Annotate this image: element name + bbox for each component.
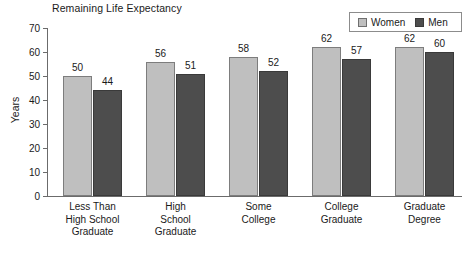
category-label-line: Graduate — [321, 214, 363, 227]
x-axis-category-label: GraduateDegree — [404, 201, 446, 226]
y-axis-tick-mark — [43, 52, 47, 53]
chart-legend: WomenMen — [349, 12, 462, 32]
bar-value-label: 51 — [185, 60, 196, 71]
y-axis-tick-label: 70 — [29, 23, 40, 34]
bar-value-label: 50 — [72, 62, 83, 73]
category-label-line: Less Than — [66, 201, 120, 214]
bar-value-label: 44 — [102, 76, 113, 87]
x-axis-category-label: CollegeGraduate — [321, 201, 363, 226]
bar-value-label: 58 — [238, 43, 249, 54]
y-axis-tick-label: 40 — [29, 95, 40, 106]
y-axis-title: Years — [9, 97, 21, 123]
bar-women-3 — [312, 47, 341, 196]
bar-value-label: 62 — [404, 33, 415, 44]
y-axis-tick-label: 10 — [29, 167, 40, 178]
bar-men-2 — [259, 71, 288, 196]
y-axis-tick-mark — [43, 196, 47, 197]
bar-men-3 — [342, 59, 371, 196]
category-label-line: High School — [66, 214, 120, 227]
x-axis-category-label: SomeCollege — [242, 201, 276, 226]
legend-swatch-icon — [358, 18, 367, 27]
y-axis-tick-mark — [43, 148, 47, 149]
bar-value-label: 62 — [321, 33, 332, 44]
legend-label: Men — [428, 17, 447, 28]
bar-men-0 — [93, 90, 122, 196]
y-axis-tick-label: 0 — [34, 191, 40, 202]
category-label-line: College — [321, 201, 363, 214]
legend-swatch-icon — [415, 18, 424, 27]
y-axis-tick-label: 50 — [29, 71, 40, 82]
bar-women-2 — [229, 57, 258, 196]
bar-women-1 — [146, 62, 175, 196]
category-label-line: High — [155, 201, 197, 214]
bar-value-label: 52 — [268, 57, 279, 68]
legend-item-women[interactable]: Women — [358, 17, 405, 28]
y-axis-tick-label: 60 — [29, 47, 40, 58]
y-axis-tick-label: 20 — [29, 143, 40, 154]
bar-women-0 — [63, 76, 92, 196]
y-axis-tick-label: 30 — [29, 119, 40, 130]
plot-area: 010203040506070 50445651585262576260 — [47, 28, 462, 196]
bar-men-4 — [425, 52, 454, 196]
legend-item-men[interactable]: Men — [415, 17, 447, 28]
x-axis-category-label: HighSchoolGraduate — [155, 201, 197, 239]
bar-value-label: 56 — [155, 48, 166, 59]
category-label-line: School — [155, 214, 197, 227]
category-label-line: Degree — [404, 214, 446, 227]
x-axis-line — [47, 196, 462, 197]
category-label-line: Graduate — [66, 226, 120, 239]
y-axis-tick-mark — [43, 172, 47, 173]
y-axis-tick-mark — [43, 100, 47, 101]
category-label-line: College — [242, 214, 276, 227]
legend-label: Women — [371, 17, 405, 28]
category-label-line: Some — [242, 201, 276, 214]
y-axis-tick-mark — [43, 76, 47, 77]
category-label-line: Graduate — [155, 226, 197, 239]
y-axis-line — [47, 28, 48, 196]
bar-women-4 — [395, 47, 424, 196]
category-label-line: Graduate — [404, 201, 446, 214]
y-axis-tick-mark — [43, 28, 47, 29]
x-axis-category-label: Less ThanHigh SchoolGraduate — [66, 201, 120, 239]
bar-men-1 — [176, 74, 205, 196]
bar-value-label: 57 — [351, 45, 362, 56]
chart-title: Remaining Life Expectancy — [52, 2, 182, 14]
y-axis-tick-mark — [43, 124, 47, 125]
bar-chart-figure: Remaining Life Expectancy Years 01020304… — [0, 0, 468, 253]
bar-value-label: 60 — [434, 38, 445, 49]
